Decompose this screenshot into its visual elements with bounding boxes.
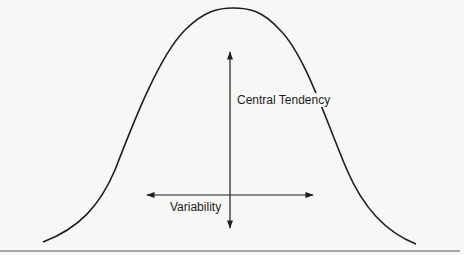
variability-label: Variability — [170, 200, 221, 214]
central-tendency-label: Central Tendency — [236, 93, 332, 107]
bell-curve-diagram — [0, 0, 464, 255]
